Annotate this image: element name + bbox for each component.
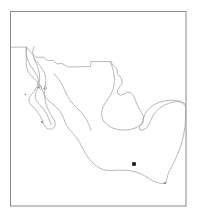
map-figure [0,0,197,223]
map-background [0,0,197,223]
coast-mark-south [164,182,166,184]
island-mark-4 [41,121,43,123]
island-mark-3 [43,88,44,89]
mexico-locator-map [0,0,197,223]
island-mark-1 [25,94,26,95]
island-mark-2 [38,87,39,88]
locality-marker-central-mexico [132,162,136,166]
data-markers-group [132,162,136,166]
